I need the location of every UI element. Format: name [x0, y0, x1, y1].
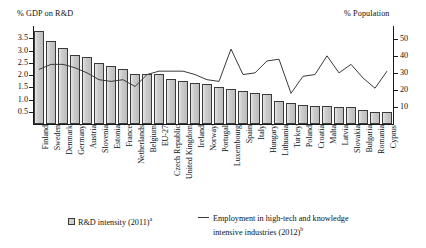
right-axis-line — [393, 26, 394, 125]
category-label-slovakia: Slovakia — [351, 125, 359, 153]
category-label-bulgaria: Bulgaria — [363, 125, 371, 153]
category-label-estonia: Estonia — [111, 125, 119, 149]
right-tick-label: 30 — [400, 69, 408, 77]
category-label-turkey: Turkey — [291, 125, 299, 148]
right-axis-tick-labels: 1020304050 — [400, 0, 426, 248]
right-tick-mark — [394, 56, 398, 57]
right-tick-label: 40 — [400, 52, 408, 60]
category-label-text: Croatia — [318, 125, 326, 149]
left-tick-label: 2.5 — [18, 59, 28, 67]
category-label-austria: Austria — [87, 125, 95, 149]
category-label-ireland: Ireland — [195, 125, 203, 148]
category-label-denmark: Denmark — [63, 125, 71, 155]
right-tick-mark — [394, 39, 398, 40]
category-label-text: Hungary — [270, 125, 278, 153]
category-label-text: Netherlands — [138, 125, 146, 164]
category-label-spain: Spain — [243, 125, 251, 143]
line-series-layer — [33, 26, 393, 124]
category-label-slovenia: Slovenia — [99, 125, 107, 153]
category-label-luxembourg: Luxembourg — [231, 125, 239, 166]
category-label-latvia: Latvia — [339, 125, 347, 145]
category-label-text: Czech Republic — [174, 125, 182, 176]
category-label-text: Turkey — [294, 125, 302, 148]
legend-bar-label: R&D intensity (2011) — [78, 218, 150, 227]
category-label-romania: Romania — [375, 125, 383, 154]
category-label-portugal: Portugal — [219, 125, 227, 152]
left-tick-label: 0.5 — [18, 108, 28, 116]
category-label-text: EU-27 — [162, 125, 170, 146]
right-axis-title: % Population — [344, 9, 390, 18]
category-label-united-kingdom: United Kingdom — [183, 125, 191, 179]
left-axis-tick-labels: 0.51.01.52.02.53.03.5 — [0, 0, 28, 248]
category-label-text: Denmark — [66, 125, 74, 155]
left-tick-label: 2.0 — [18, 71, 28, 79]
category-label-finland: Finland — [39, 125, 47, 149]
legend-bar-footnote: a — [150, 216, 153, 222]
category-label-text: Germany — [78, 125, 86, 155]
category-label-text: United Kingdom — [186, 125, 194, 179]
category-label-germany: Germany — [75, 125, 83, 155]
category-label-czech-republic: Czech Republic — [171, 125, 179, 176]
category-label-text: Lithuania — [282, 125, 290, 156]
category-label-lithuania: Lithuania — [279, 125, 287, 156]
category-label-poland: Poland — [303, 125, 311, 147]
category-label-text: Finland — [42, 125, 50, 149]
chart-legend: R&D intensity (2011)a Employment in high… — [0, 212, 426, 246]
employment-line — [39, 49, 387, 93]
right-tick-label: 10 — [400, 103, 408, 111]
legend-line-footnote: b — [300, 226, 303, 232]
category-label-norway: Norway — [207, 125, 215, 151]
left-tick-label: 1.0 — [18, 96, 28, 104]
category-label-text: Romania — [378, 125, 386, 154]
chart-figure: % GDP on R&D % Population 0.51.01.52.02.… — [0, 0, 426, 248]
category-label-text: Belgium — [150, 125, 158, 153]
category-label-text: Latvia — [342, 125, 350, 145]
category-label-sweden: Sweden — [51, 125, 59, 150]
category-label-text: Poland — [306, 125, 314, 147]
right-tick-mark — [394, 73, 398, 74]
category-label-text: Sweden — [54, 125, 62, 150]
category-label-text: France — [126, 125, 134, 147]
left-tick-label: 1.5 — [18, 83, 28, 91]
right-tick-label: 50 — [400, 35, 408, 43]
category-label-malta: Malta — [327, 125, 335, 144]
category-label-belgium: Belgium — [147, 125, 155, 153]
legend-item-employment: Employment in high-tech and knowledge in… — [198, 214, 378, 238]
category-label-text: Norway — [210, 125, 218, 151]
right-tick-label: 20 — [400, 86, 408, 94]
legend-line-swatch-icon — [198, 217, 209, 218]
category-label-cyprus: Cyprus — [387, 125, 395, 148]
category-label-croatia: Croatia — [315, 125, 323, 149]
category-label-text: Spain — [246, 125, 254, 143]
legend-line-label-2: intensive industries (2012) — [213, 228, 300, 237]
category-label-text: Portugal — [222, 125, 230, 152]
right-tick-mark — [394, 107, 398, 108]
category-label-text: Ireland — [198, 125, 206, 148]
category-label-text: Austria — [90, 125, 98, 149]
category-label-eu-27: EU-27 — [159, 125, 167, 146]
category-axis-labels: FinlandSwedenDenmarkGermanyAustriaSloven… — [33, 125, 393, 205]
category-label-italy: Italy — [255, 125, 263, 140]
left-tick-label: 3.5 — [18, 34, 28, 42]
category-label-text: Luxembourg — [234, 125, 242, 166]
category-label-text: Slovenia — [102, 125, 110, 153]
category-label-text: Bulgaria — [366, 125, 374, 153]
legend-line-label-1: Employment in high-tech and knowledge — [213, 214, 349, 223]
category-label-text: Slovakia — [354, 125, 362, 153]
category-label-text: Estonia — [114, 125, 122, 149]
left-tick-label: 3.0 — [18, 47, 28, 55]
category-label-text: Cyprus — [390, 125, 398, 148]
legend-bar-swatch-icon — [68, 218, 75, 225]
category-label-hungary: Hungary — [267, 125, 275, 153]
right-tick-mark — [394, 90, 398, 91]
category-label-netherlands: Netherlands — [135, 125, 143, 164]
category-label-text: Malta — [330, 125, 338, 144]
category-label-text: Italy — [258, 125, 266, 140]
legend-item-rd-intensity: R&D intensity (2011)a — [68, 214, 152, 228]
category-label-france: France — [123, 125, 131, 147]
